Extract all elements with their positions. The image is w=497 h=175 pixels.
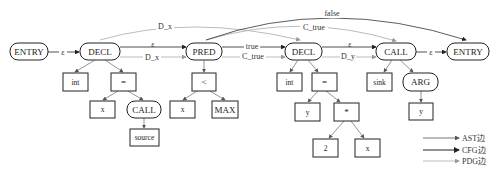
svg-text:AST边: AST边 [462, 133, 485, 143]
ast-node-assign-2: = [312, 73, 337, 91]
ast-node-y-1: y [295, 103, 320, 121]
svg-text:int: int [72, 78, 81, 87]
node-call: CALL [376, 43, 416, 60]
node-decl-2: DECL [285, 43, 322, 60]
ast-node-int-2: int [277, 73, 302, 91]
svg-text:ENTRY: ENTRY [453, 47, 483, 57]
svg-text:DECL: DECL [292, 47, 316, 57]
arc-ctrue-label: C_true [303, 23, 325, 32]
ast-node-y-2: y [409, 103, 433, 120]
node-decl-1: DECL [80, 43, 120, 60]
edge-pred-decl-pdg-label: C_true [242, 52, 264, 61]
node-exit: ENTRY [447, 43, 489, 60]
legend: AST边 CFG边 PDG边 [423, 133, 486, 166]
edge-decl-pred-pdg-label: D_x [145, 53, 159, 62]
legend-ast-edge: AST边 [423, 133, 485, 143]
ast-node-x-1: x [90, 101, 115, 118]
ast-node-arg: ARG [403, 73, 438, 91]
ast-node-multiply: * [334, 103, 359, 121]
arc-dx-label: D_x [158, 22, 172, 31]
svg-text:CALL: CALL [132, 105, 156, 115]
ast-node-source: source [130, 129, 159, 146]
ast-node-less-than: < [192, 73, 216, 91]
svg-text:x: x [366, 144, 370, 153]
ast-node-sink: sink [367, 73, 392, 91]
edge-decl-call-pdg-label: D_y [341, 52, 355, 61]
svg-text:PRED: PRED [192, 47, 216, 57]
svg-text:ARG: ARG [411, 77, 431, 87]
legend-cfg-edge: CFG边 [423, 145, 486, 155]
arc-dx-edge [100, 27, 300, 40]
svg-text:PDG边: PDG边 [462, 156, 486, 166]
ast-node-x-3: x [355, 139, 380, 157]
ast-node-x-2: x [170, 101, 195, 118]
node-entry: ENTRY [10, 43, 48, 60]
svg-text:<: < [201, 77, 206, 87]
svg-text:=: = [322, 77, 327, 87]
svg-text:x: x [101, 105, 105, 114]
ast-node-two: 2 [313, 139, 338, 157]
ast-node-call-source: CALL [127, 101, 161, 118]
svg-text:MAX: MAX [214, 105, 236, 115]
svg-text:CALL: CALL [384, 47, 408, 57]
ast-node-assign-1: = [111, 73, 136, 91]
svg-text:y: y [419, 107, 423, 116]
code-property-graph: D_x C_true false ε ε D_x true C_true ε D… [0, 0, 497, 175]
svg-text:DECL: DECL [88, 47, 112, 57]
ast-node-int-1: int [63, 73, 88, 91]
svg-text:y: y [306, 108, 310, 117]
svg-text:int: int [286, 78, 295, 87]
svg-text:2: 2 [324, 144, 328, 153]
node-pred: PRED [186, 43, 222, 60]
legend-pdg-edge: PDG边 [423, 156, 486, 166]
arc-false-edge [206, 18, 466, 40]
svg-text:*: * [344, 107, 349, 117]
edge-pred-decl-cfg-label: true [246, 42, 259, 51]
svg-text:source: source [135, 133, 155, 142]
svg-text:CFG边: CFG边 [462, 145, 486, 155]
svg-text:sink: sink [373, 78, 386, 87]
svg-text:=: = [121, 77, 126, 87]
svg-text:ENTRY: ENTRY [14, 47, 44, 57]
svg-text:x: x [181, 105, 185, 114]
arc-false-label: false [324, 9, 340, 18]
ast-node-max: MAX [212, 101, 238, 118]
